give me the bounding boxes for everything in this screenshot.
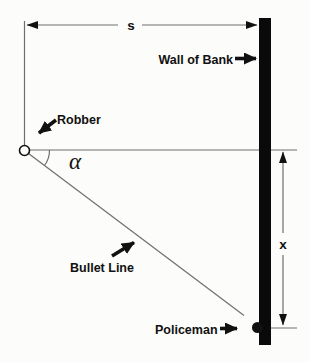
angle-arc <box>45 150 50 166</box>
robber-pointer-arrow <box>39 120 56 133</box>
robber-label: Robber <box>57 113 101 127</box>
distance-s-label: s <box>127 18 135 33</box>
policeman-label: Policeman <box>155 323 218 337</box>
bullet-line-pointer-arrow <box>112 243 134 257</box>
policeman-position-marker <box>252 322 263 333</box>
diagram-canvas: s α x Wall of Bank Robber Bullet Line Po… <box>0 0 310 362</box>
distance-x-label: x <box>279 237 287 252</box>
bullet-trajectory-line <box>29 154 245 316</box>
angle-alpha-label: α <box>69 149 82 174</box>
bank-wall <box>259 18 271 345</box>
robber-position-marker <box>20 146 30 156</box>
bullet-line-label: Bullet Line <box>70 261 134 275</box>
wall-of-bank-label: Wall of Bank <box>158 53 233 67</box>
